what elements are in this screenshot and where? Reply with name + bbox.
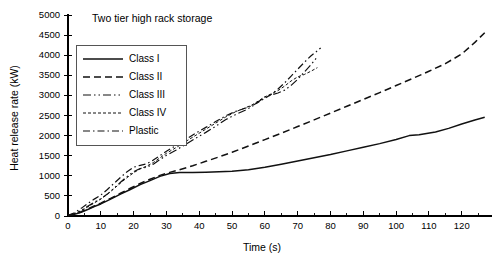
- y-tick-label: 5000: [39, 9, 60, 20]
- x-tick-label: 10: [96, 220, 107, 231]
- legend-label-plastic: Plastic: [129, 125, 158, 136]
- x-axis-label: Time (s): [243, 241, 281, 253]
- x-tick-label: 110: [421, 220, 436, 231]
- x-tick-label: 120: [454, 220, 470, 231]
- y-tick-label: 4500: [39, 29, 60, 40]
- y-tick-label: 0: [55, 210, 60, 221]
- x-tick-label: 30: [161, 220, 172, 231]
- x-tick-label: 60: [260, 220, 271, 231]
- x-tick-label: 90: [358, 220, 369, 231]
- y-tick-label: 1500: [39, 150, 60, 161]
- x-tick-label: 100: [388, 220, 404, 231]
- x-tick-label: 80: [325, 220, 336, 231]
- x-tick-label: 20: [128, 220, 139, 231]
- legend-label-class-ii: Class II: [129, 71, 162, 82]
- chart-figure: 0500100015002000250030003500400045005000…: [0, 0, 497, 259]
- legend: Class IClass IIClass IIIClass IVPlastic: [76, 45, 186, 145]
- y-axis-label: Heat release rate (kW): [8, 65, 20, 171]
- x-tick-label: 0: [65, 220, 70, 231]
- legend-label-class-i: Class I: [129, 53, 160, 64]
- y-tick-label: 2000: [39, 130, 60, 141]
- x-tick-label: 50: [227, 220, 238, 231]
- chart-title: Two tier high rack storage: [92, 12, 212, 24]
- x-tick-label: 40: [194, 220, 205, 231]
- line-chart: 0500100015002000250030003500400045005000…: [0, 0, 497, 259]
- x-axis-ticks: 0102030405060708090100110120: [65, 211, 478, 231]
- y-tick-label: 3500: [39, 69, 60, 80]
- y-tick-label: 4000: [39, 49, 60, 60]
- y-tick-label: 2500: [39, 110, 60, 121]
- x-tick-label: 70: [292, 220, 303, 231]
- legend-label-class-iii: Class III: [129, 89, 165, 100]
- legend-label-class-iv: Class IV: [129, 107, 167, 118]
- y-tick-label: 500: [44, 190, 60, 201]
- y-axis-ticks: 0500100015002000250030003500400045005000: [39, 9, 72, 221]
- y-tick-label: 1000: [39, 170, 60, 181]
- y-tick-label: 3000: [39, 89, 60, 100]
